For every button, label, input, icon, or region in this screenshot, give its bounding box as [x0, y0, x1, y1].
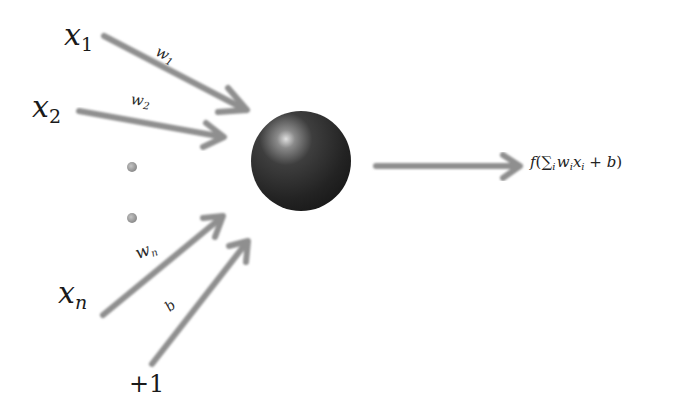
- arrow-x2-to-neuron: [79, 111, 224, 147]
- bias-input-label: +1: [129, 372, 164, 396]
- ellipsis-dot-lower: [127, 213, 137, 223]
- arrow-x1-to-neuron: [104, 36, 247, 112]
- ellipsis-dot-upper: [127, 162, 137, 172]
- output-arrow: [376, 155, 520, 178]
- input-label-x2: x2: [32, 92, 61, 126]
- weight-label-w2: w2: [130, 92, 151, 112]
- input-label-xn: xn: [58, 278, 87, 312]
- neuron-diagram: [0, 0, 690, 417]
- neuron-sphere: [251, 111, 351, 211]
- output-formula: f(∑i wixi + b): [530, 155, 622, 172]
- input-label-x1: x1: [64, 20, 93, 54]
